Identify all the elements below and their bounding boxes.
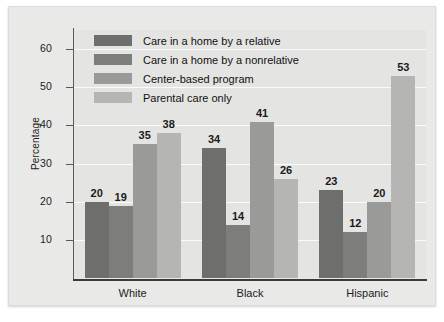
legend-label: Center-based program [143, 73, 254, 85]
bar-value-label: 41 [245, 107, 279, 119]
bar-value-label: 23 [314, 175, 348, 187]
y-axis-tick [66, 49, 74, 50]
y-axis-tick [66, 202, 74, 203]
y-axis-tick [66, 87, 74, 88]
y-axis-tick-label: 10 [12, 233, 52, 245]
bar [133, 144, 157, 278]
y-axis-tick-label: 20 [12, 195, 52, 207]
bar [367, 202, 391, 278]
legend-item[interactable]: Care in a home by a relative [94, 32, 324, 49]
chart-legend: Care in a home by a relativeCare in a ho… [94, 32, 324, 108]
bar [157, 133, 181, 278]
x-axis-category-label: Black [190, 287, 310, 299]
legend-swatch [94, 35, 132, 46]
y-axis-tick-label: 50 [12, 80, 52, 92]
bar [109, 206, 133, 278]
x-axis-category-label: White [73, 287, 193, 299]
bar [319, 190, 343, 278]
legend-item[interactable]: Care in a home by a nonrelative [94, 51, 324, 68]
y-axis-label: Percentage [30, 99, 41, 189]
bar [391, 76, 415, 278]
legend-label: Parental care only [143, 92, 232, 104]
legend-item[interactable]: Parental care only [94, 89, 324, 106]
legend-swatch [94, 73, 132, 84]
bar [343, 232, 367, 278]
bar [85, 202, 109, 278]
y-axis-tick [66, 164, 74, 165]
legend-swatch [94, 92, 132, 103]
bar [274, 179, 298, 278]
chart-panel: 102030405060 Percentage 2019353834144126… [8, 6, 436, 306]
y-axis-line [73, 28, 74, 280]
legend-label: Care in a home by a relative [143, 35, 281, 47]
x-axis-category-label: Hispanic [307, 287, 427, 299]
x-axis-line [73, 279, 427, 281]
legend-label: Care in a home by a nonrelative [143, 54, 299, 66]
bar-value-label: 26 [269, 164, 303, 176]
legend-swatch [94, 54, 132, 65]
chart-figure: 102030405060 Percentage 2019353834144126… [0, 0, 444, 322]
y-axis-tick-label: 60 [12, 42, 52, 54]
y-axis-tick [66, 125, 74, 126]
bar-value-label: 38 [152, 118, 186, 130]
bar-value-label: 53 [386, 61, 420, 73]
bar-value-label: 34 [197, 133, 231, 145]
y-axis-tick [66, 240, 74, 241]
bar [250, 122, 274, 278]
legend-item[interactable]: Center-based program [94, 70, 324, 87]
bar [226, 225, 250, 278]
